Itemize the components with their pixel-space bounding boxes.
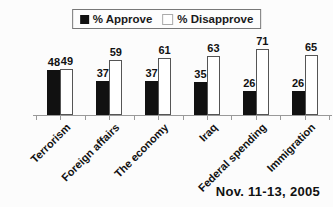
bar-disapprove-immigration xyxy=(305,55,318,115)
category-label-immigration: Immigration xyxy=(264,121,317,174)
bar-approve-iraq xyxy=(194,82,207,115)
x-axis-tick xyxy=(329,116,330,120)
plot-area: 4849Terrorism3759Foreign affairs3761The … xyxy=(0,0,333,207)
x-axis-tick xyxy=(207,116,208,120)
x-axis-tick xyxy=(183,116,184,120)
value-disapprove-foreign-affairs: 59 xyxy=(103,46,129,58)
x-axis-tick xyxy=(109,116,110,120)
legend-item-disapprove: % Disapprove xyxy=(162,13,253,25)
disapprove-swatch-icon xyxy=(162,14,173,25)
category-label-terrorism: Terrorism xyxy=(29,121,73,165)
bar-disapprove-the-economy xyxy=(158,58,171,115)
x-axis-tick xyxy=(158,116,159,120)
bar-approve-foreign-affairs xyxy=(96,81,109,115)
bar-disapprove-federal-spending xyxy=(256,49,269,115)
value-disapprove-iraq: 63 xyxy=(200,42,226,54)
x-axis-tick xyxy=(85,116,86,120)
bar-disapprove-foreign-affairs xyxy=(109,60,122,115)
date-label: Nov. 11-13, 2005 xyxy=(216,184,320,199)
value-disapprove-the-economy: 61 xyxy=(152,44,178,56)
approval-bar-chart: 4849Terrorism3759Foreign affairs3761The … xyxy=(0,0,333,207)
x-axis-tick xyxy=(134,116,135,120)
x-axis-tick xyxy=(36,116,37,120)
x-axis-tick xyxy=(256,116,257,120)
approve-swatch-icon xyxy=(80,15,89,24)
approve-legend-label: % Approve xyxy=(93,13,153,25)
legend-item-approve: % Approve xyxy=(80,13,153,25)
bar-disapprove-terrorism xyxy=(60,69,73,115)
bar-disapprove-iraq xyxy=(207,56,220,115)
value-disapprove-terrorism: 49 xyxy=(54,55,80,67)
category-label-iraq: Iraq xyxy=(197,121,220,144)
disapprove-legend-label: % Disapprove xyxy=(177,13,253,25)
value-disapprove-immigration: 65 xyxy=(298,41,324,53)
x-axis-tick xyxy=(280,116,281,120)
value-disapprove-federal-spending: 71 xyxy=(249,35,275,47)
legend: % Approve % Disapprove xyxy=(72,9,262,29)
bar-approve-immigration xyxy=(292,91,305,115)
x-axis-tick xyxy=(60,116,61,120)
x-axis-tick xyxy=(231,116,232,120)
bar-approve-terrorism xyxy=(47,70,60,115)
bar-approve-the-economy xyxy=(145,81,158,115)
bar-approve-federal-spending xyxy=(243,91,256,115)
x-axis-tick xyxy=(305,116,306,120)
